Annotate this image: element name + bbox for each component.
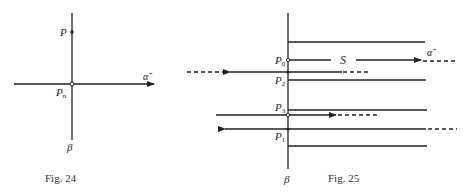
point-P (70, 30, 74, 34)
point-P2 (286, 70, 289, 73)
point-P3 (286, 113, 289, 116)
caption-fig-25: Fig. 25 (328, 172, 360, 184)
label-alpha-plus: α+ (427, 46, 437, 58)
label-P3: P3 (274, 101, 286, 115)
label-Pn: Pn (55, 86, 67, 100)
label-beta: β (66, 141, 73, 153)
label-alpha-plus: α+ (143, 70, 153, 82)
figures-canvas: P Pn α+ β Fig. 24 P0 P2 P3 (0, 0, 469, 195)
label-P: P (59, 26, 67, 38)
label-P1: P1 (274, 130, 286, 144)
label-beta: β (283, 173, 290, 185)
figure-25: P0 P2 P3 P1 S α+ β Fig. 25 (187, 13, 457, 185)
point-P1 (286, 127, 289, 130)
label-P0: P0 (274, 54, 286, 68)
label-S: S (340, 53, 346, 67)
figure-24: P Pn α+ β Fig. 24 (14, 13, 154, 184)
label-P2: P2 (274, 74, 286, 88)
point-P0 (286, 58, 289, 61)
caption-fig-24: Fig. 24 (45, 172, 77, 184)
point-Pn (70, 82, 74, 86)
